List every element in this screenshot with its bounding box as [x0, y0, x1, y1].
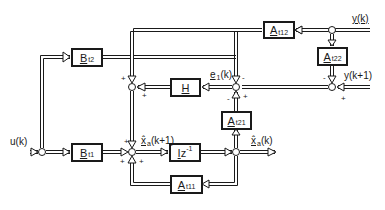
block-a-t21: At21	[221, 111, 252, 130]
sign-plus: +	[243, 93, 248, 101]
sum-node-e1	[233, 84, 240, 91]
junction-uk	[39, 149, 46, 156]
sign-minus: -	[227, 95, 230, 103]
block-b-t2: Bt2	[71, 48, 103, 67]
block-a-t22: At22	[317, 47, 348, 66]
sign-plus: +	[121, 75, 126, 83]
block-a-t12: At12	[263, 21, 295, 39]
junction-xhat-k	[233, 149, 240, 156]
label-u-k: u(k)	[10, 137, 27, 147]
block-a-t11: At11	[170, 175, 203, 194]
label-xhat-k: x̂a(k)	[251, 136, 273, 147]
block-b-t1: Bt1	[71, 143, 103, 162]
sign-plus: +	[341, 95, 346, 103]
sign-plus: +	[120, 158, 125, 166]
label-y-k1: y(k+1)	[344, 71, 372, 81]
sign-minus: -	[242, 74, 245, 82]
sum-node-left	[129, 84, 136, 91]
sign-minus: -	[323, 74, 326, 82]
sign-plus: +	[139, 158, 144, 166]
label-xhat-k1: x̂a(k+1)	[141, 136, 174, 147]
sum-node-xhat-k1	[129, 149, 136, 156]
label-y-k: y(k)	[352, 14, 369, 24]
arrowhead	[295, 26, 302, 34]
sum-node-right	[329, 84, 336, 91]
block-h: H	[170, 78, 201, 97]
junction-yk	[329, 27, 336, 34]
label-e1-k: e1(k)	[210, 70, 232, 81]
sign-plus: +	[124, 138, 129, 146]
sign-plus: +	[142, 92, 147, 100]
